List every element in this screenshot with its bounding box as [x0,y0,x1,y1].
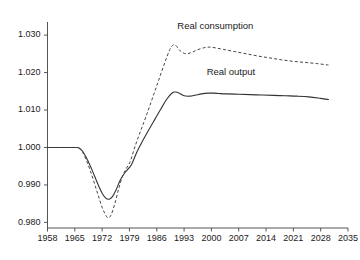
y-tick-label: 1.030 [18,29,41,39]
series-path-real-output [48,92,329,199]
x-tick-label: 2028 [311,233,331,243]
line-chart: 0.9800.9901.0001.0101.0201.030 195819651… [0,0,360,260]
y-tick-label: 1.000 [18,142,41,152]
series-lines [48,45,329,218]
series-path-real-consumption [48,45,329,218]
x-tick-label: 1965 [65,233,85,243]
x-tick-label: 2007 [229,233,249,243]
annotation-real-output: Real output [207,66,256,77]
x-tick-label: 2000 [201,233,221,243]
x-tick-label: 1979 [119,233,139,243]
annotation-real-consumption: Real consumption [177,20,253,31]
y-tick-label: 1.010 [18,104,41,114]
y-tick-label: 0.980 [18,217,41,227]
series-annotations: Real consumptionReal output [177,20,255,77]
chart-container: 0.9800.9901.0001.0101.0201.030 195819651… [0,0,360,260]
y-axis-ticks: 0.9800.9901.0001.0101.0201.030 [18,29,48,226]
y-axis: 0.9800.9901.0001.0101.0201.030 [18,22,48,228]
x-tick-label: 2014 [256,233,276,243]
x-axis-ticks: 1958196519721979198619932000200720142021… [37,228,358,243]
y-tick-label: 0.990 [18,179,41,189]
x-tick-label: 2035 [338,233,358,243]
x-tick-label: 2021 [283,233,303,243]
x-tick-label: 1993 [174,233,194,243]
x-tick-label: 1986 [147,233,167,243]
x-tick-label: 1972 [92,233,112,243]
x-tick-label: 1958 [37,233,57,243]
x-axis: 1958196519721979198619932000200720142021… [37,228,358,243]
y-tick-label: 1.020 [18,67,41,77]
